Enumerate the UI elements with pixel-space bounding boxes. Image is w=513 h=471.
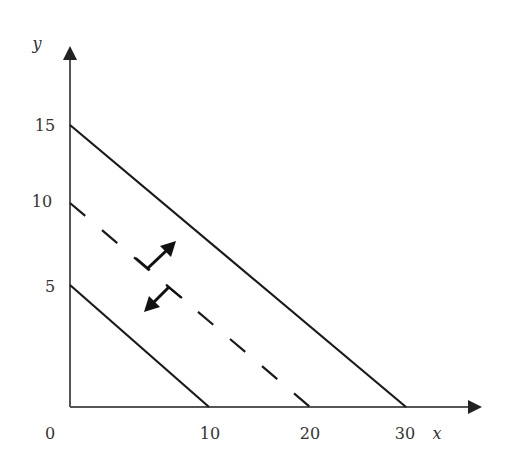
- y-axis-arrowhead-icon: [63, 46, 77, 60]
- x-tick-10: 10: [200, 424, 220, 443]
- x-axis-label: x: [432, 424, 441, 443]
- diagram-canvas: [0, 0, 513, 471]
- budget-line-diagram: y 15 10 5 0 10 20 30 x: [0, 0, 513, 471]
- upper-line: [70, 125, 406, 407]
- outward-shift-arrow-icon: [136, 241, 176, 270]
- x-axis-arrowhead-icon: [468, 400, 482, 414]
- x-tick-20: 20: [300, 424, 320, 443]
- y-tick-15: 15: [35, 116, 55, 135]
- y-tick-5: 5: [45, 277, 55, 296]
- y-tick-10: 10: [32, 192, 52, 211]
- y-axis-label: y: [32, 34, 41, 53]
- origin-label: 0: [45, 424, 55, 443]
- x-tick-30: 30: [395, 424, 415, 443]
- middle-dashed-line: [70, 203, 310, 407]
- inward-shift-arrow-icon: [144, 286, 182, 312]
- lower-line: [70, 285, 209, 407]
